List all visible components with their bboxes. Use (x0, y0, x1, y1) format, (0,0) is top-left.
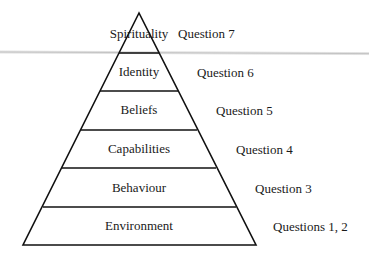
question-label-1-2: Questions 1, 2 (273, 220, 348, 234)
layer-label-beliefs: Beliefs (121, 103, 158, 117)
question-label-4: Question 4 (236, 143, 293, 157)
question-label-3: Question 3 (255, 182, 312, 196)
question-label-5: Question 5 (216, 104, 273, 118)
layer-label-spirituality: Spirituality (110, 27, 169, 41)
layer-label-identity: Identity (119, 65, 159, 79)
question-label-6: Question 6 (197, 66, 254, 80)
pyramid-outline (23, 13, 256, 245)
layer-label-behaviour: Behaviour (112, 181, 166, 195)
layer-label-capabilities: Capabilities (108, 142, 170, 156)
layer-label-environment: Environment (105, 219, 173, 233)
question-label-7: Question 7 (178, 27, 235, 41)
